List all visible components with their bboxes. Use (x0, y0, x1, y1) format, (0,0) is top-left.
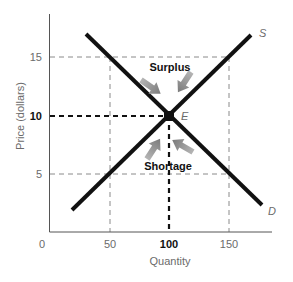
x-tick-0: 0 (39, 238, 45, 250)
demand-label: D (268, 205, 276, 217)
surplus-label: Surplus (150, 61, 191, 73)
supply-demand-chart: Surplus Shortage S D E 15 10 5 0 50 100 … (0, 0, 293, 282)
supply-label: S (259, 27, 267, 39)
equilibrium-point (164, 111, 174, 121)
x-tick-150: 150 (220, 238, 238, 250)
y-tick-5: 5 (36, 168, 42, 180)
shortage-label: Shortage (144, 160, 192, 172)
y-tick-10: 10 (30, 110, 42, 122)
equilibrium-label: E (181, 110, 189, 122)
x-tick-100: 100 (160, 238, 178, 250)
y-tick-15: 15 (30, 51, 42, 63)
x-axis-title: Quantity (150, 255, 191, 267)
y-axis-title: Price (dollars) (14, 82, 26, 150)
x-tick-50: 50 (104, 238, 116, 250)
